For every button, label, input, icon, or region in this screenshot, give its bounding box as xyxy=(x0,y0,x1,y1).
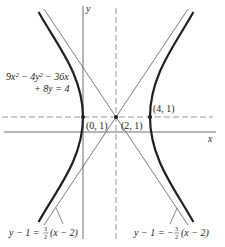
svg-text:(x − 2): (x − 2) xyxy=(50,227,79,239)
equation-line-1: 9x² − 4y² − 36x xyxy=(6,71,69,82)
svg-text:3: 3 xyxy=(44,226,47,232)
svg-text:2: 2 xyxy=(44,234,47,240)
x-axis-label: x xyxy=(207,133,213,144)
label-right-vertex: (4, 1) xyxy=(153,103,175,115)
svg-text:3: 3 xyxy=(175,226,178,232)
svg-text:y − 1 = −: y − 1 = − xyxy=(133,227,174,238)
svg-text:2: 2 xyxy=(175,234,178,240)
asymptote-label-left: y − 1 = 3 2 (x − 2) xyxy=(8,226,79,240)
equation-line-2: + 8y = 4 xyxy=(34,83,69,94)
asymptote-label-right: y − 1 = − 3 2 (x − 2) xyxy=(133,226,210,240)
leader-line-left xyxy=(56,208,63,224)
label-center: (2, 1) xyxy=(121,120,143,132)
point-left-vertex xyxy=(81,115,85,119)
point-right-vertex xyxy=(148,115,152,119)
point-center xyxy=(114,115,118,119)
y-axis-label: y xyxy=(85,3,91,14)
label-left-vertex: (0, 1) xyxy=(86,120,108,132)
leader-line-right xyxy=(170,208,177,224)
svg-text:(x − 2): (x − 2) xyxy=(181,227,210,239)
hyperbola-diagram: y x (0, 1) (2, 1) (4, 1) 9x² − 4y² − 36x… xyxy=(0,0,225,247)
svg-text:y − 1 =: y − 1 = xyxy=(8,227,39,238)
